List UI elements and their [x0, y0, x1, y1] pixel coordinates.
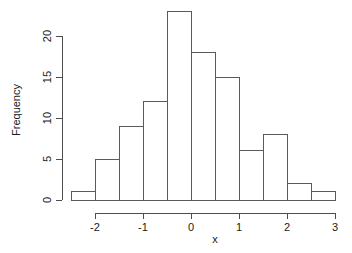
x-tick-label: -1 [138, 221, 148, 233]
x-tick-label: 2 [284, 221, 290, 233]
x-tick-label: -2 [90, 221, 100, 233]
y-tick-label: 0 [41, 197, 53, 203]
histogram-bar [95, 159, 119, 200]
plot-canvas: 05101520 -2-10123 x Frequency [0, 0, 352, 253]
y-axis-title: Frequency [10, 84, 22, 136]
x-axis: -2-10123 [90, 213, 338, 233]
y-tick-label: 5 [41, 156, 53, 162]
histogram-bar [119, 126, 143, 200]
histogram-bar [191, 52, 215, 200]
y-tick-label: 10 [41, 112, 53, 124]
x-axis-title: x [212, 233, 218, 245]
x-tick-label: 3 [332, 221, 338, 233]
x-tick-label: 0 [188, 221, 194, 233]
y-tick-label: 15 [41, 71, 53, 83]
histogram-bar [215, 77, 239, 200]
y-tick-label: 20 [41, 30, 53, 42]
histogram-bar [311, 192, 335, 200]
histogram-bar [263, 134, 287, 200]
histogram-bar [239, 151, 263, 200]
histogram-bar [287, 184, 311, 200]
histogram-bar [143, 102, 167, 200]
histogram-bar [167, 11, 191, 200]
x-tick-label: 1 [236, 221, 242, 233]
histogram-bar [71, 192, 95, 200]
bars-group [71, 11, 335, 200]
histogram-plot: 05101520 -2-10123 x Frequency [0, 0, 352, 253]
y-axis: 05101520 [41, 30, 62, 203]
